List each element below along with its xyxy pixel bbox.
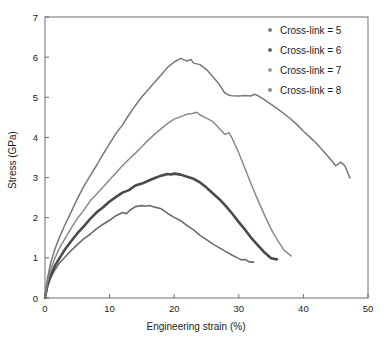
- y-tick-label: 1: [33, 252, 38, 263]
- y-tick-label: 6: [33, 52, 38, 63]
- y-tick-label: 5: [33, 92, 38, 103]
- y-tick-label: 4: [33, 132, 38, 143]
- legend-marker: [268, 48, 271, 51]
- y-tick-label: 2: [33, 212, 38, 223]
- stress-strain-figure: 01020304050 01234567 Cross-link = 5Cross…: [0, 0, 389, 345]
- x-tick-label: 30: [234, 303, 245, 314]
- x-axis-title: Engineering strain (%): [147, 321, 246, 332]
- plot-frame: [45, 17, 368, 298]
- legend-label: Cross-link = 7: [280, 65, 342, 76]
- chart-legend: Cross-link = 5Cross-link = 6Cross-link =…: [268, 25, 341, 96]
- y-axis-title: Stress (GPa): [7, 131, 18, 189]
- legend-label: Cross-link = 5: [280, 25, 342, 36]
- y-tick-labels: 01234567: [33, 12, 38, 304]
- x-tick-label: 50: [363, 303, 374, 314]
- legend-label: Cross-link = 8: [280, 85, 342, 96]
- curve-cross-link-7: [45, 112, 291, 298]
- legend-marker: [268, 28, 271, 31]
- legend-label: Cross-link = 6: [280, 45, 342, 56]
- x-tick-label: 10: [104, 303, 115, 314]
- legend-marker: [268, 88, 271, 91]
- x-tick-label: 20: [169, 303, 180, 314]
- legend-marker: [268, 68, 271, 71]
- y-tick-label: 0: [33, 293, 38, 304]
- x-tick-label: 0: [42, 303, 47, 314]
- chart-canvas: 01020304050 01234567 Cross-link = 5Cross…: [0, 0, 389, 345]
- x-tick-label: 40: [298, 303, 309, 314]
- axis-ticks: [45, 17, 368, 298]
- y-tick-label: 7: [33, 12, 38, 23]
- curve-cross-link-6: [45, 174, 277, 298]
- y-tick-label: 3: [33, 172, 38, 183]
- x-tick-labels: 01020304050: [42, 303, 373, 314]
